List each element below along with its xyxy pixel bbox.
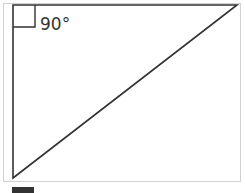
angle-label: 90° (40, 16, 70, 33)
right-angle-marker (13, 5, 35, 27)
bottom-bar (12, 187, 34, 193)
right-triangle (0, 0, 245, 193)
